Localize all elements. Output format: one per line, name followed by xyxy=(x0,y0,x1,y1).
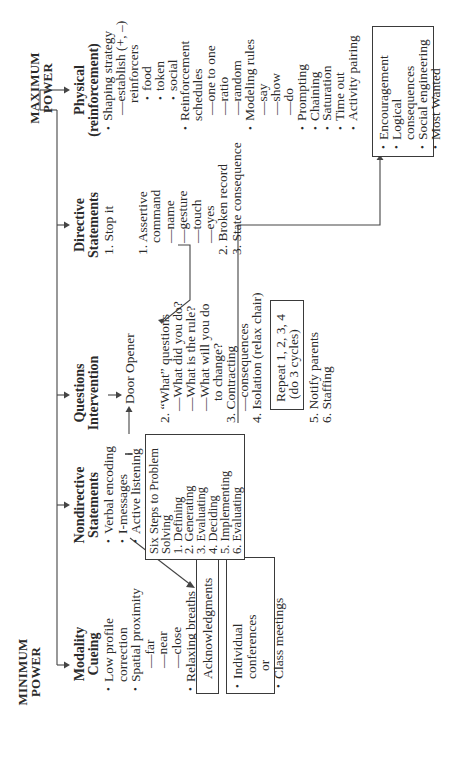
repeat-label: (do 3 cycles) xyxy=(287,301,300,402)
physical-list: Shaping strategy —establish (+, –) reinf… xyxy=(102,21,360,121)
door-opener-label: Door Opener xyxy=(123,333,137,404)
list-item: 6. Evaluating xyxy=(232,435,244,554)
header-line: Questions xyxy=(73,348,87,438)
directive-statements-header: Directive Statements xyxy=(73,182,101,268)
header-line: (reinforcement) xyxy=(87,40,101,140)
list-item: —What will you do xyxy=(198,293,211,423)
encouragement-box: Encouragement Logical consequences Socia… xyxy=(372,26,434,157)
list-item: 4. Isolation (relax chair) xyxy=(250,293,263,423)
repeat-cycles-box: Repeat 1, 2, 3, 4 (do 3 cycles) xyxy=(270,300,304,410)
questions-list: 2. “What” questions —What did you do? —W… xyxy=(158,293,264,423)
list-item: —touch xyxy=(190,142,203,255)
questions-after-list: 5. Notify parents 6. Staffing xyxy=(308,332,334,423)
header-line: Physical xyxy=(73,40,87,140)
six-steps-box: Six Steps to Problem Solving 1. Defining… xyxy=(145,434,245,560)
encouragement-list: Encouragement Logical consequences Socia… xyxy=(377,27,442,140)
list-item: —eyes xyxy=(203,142,216,255)
list-item: —name xyxy=(163,142,176,255)
list-item: 6. Staffing xyxy=(321,332,334,423)
header-line: Statements xyxy=(87,182,101,268)
questions-intervention-header: Questions Intervention xyxy=(73,348,101,438)
arrow-head-icon xyxy=(126,406,133,412)
discipline-power-diagram: MINIMUM POWER MAXIMUM POWER Modality Cue… xyxy=(0,0,454,778)
list-item: 2. Broken record xyxy=(216,142,229,255)
stop-it-label: 1. Stop it xyxy=(102,206,116,255)
list-item: command xyxy=(149,142,162,255)
list-item: Logical consequences xyxy=(390,27,416,140)
list-item: —What is the rule? xyxy=(184,293,197,423)
list-item: —gesture xyxy=(176,142,189,255)
header-line: Directive xyxy=(73,182,87,268)
list-item: Most Wanted xyxy=(429,27,442,140)
list-item: 1. Assertive xyxy=(136,142,149,255)
list-item: Activity pairing xyxy=(347,21,360,121)
header-line: Intervention xyxy=(87,348,101,438)
list-item: 3. State consequence xyxy=(230,142,243,255)
directive-list: 1. Assertive command —name —gesture —tou… xyxy=(136,142,243,255)
physical-reinforcement-header: Physical (reinforcement) xyxy=(73,40,101,140)
